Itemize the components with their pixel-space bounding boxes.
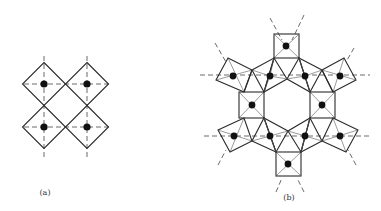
metal-atom xyxy=(83,80,90,87)
metal-atom xyxy=(83,123,90,130)
internal-bonds xyxy=(252,58,322,152)
dashed-axis xyxy=(270,18,282,40)
metal-atom xyxy=(302,73,309,80)
metal-atom xyxy=(40,123,47,130)
metal-atom xyxy=(283,43,290,50)
dashed-axis xyxy=(292,15,304,40)
metal-atom xyxy=(40,80,47,87)
metal-atom xyxy=(267,133,274,140)
metal-atom xyxy=(337,133,344,140)
dashed-axis xyxy=(276,178,282,192)
metal-atom xyxy=(302,133,309,140)
metal-atom xyxy=(267,73,274,80)
panel-b-label: (b) xyxy=(283,193,294,202)
metal-atom xyxy=(231,133,238,140)
panel-a-label: (a) xyxy=(39,188,50,197)
metal-atom xyxy=(249,102,256,109)
dashed-axis xyxy=(218,150,226,165)
dashed-axis xyxy=(346,48,354,62)
dashed-axis xyxy=(348,150,356,165)
panel-b xyxy=(200,15,370,192)
metal-atom xyxy=(285,161,292,168)
metal-atom xyxy=(337,73,344,80)
metal-atom xyxy=(319,102,326,109)
metal-atom xyxy=(230,73,237,80)
dashed-axis xyxy=(297,178,304,192)
panel-a xyxy=(23,56,113,160)
dashed-axis xyxy=(215,43,226,62)
diagram-canvas: (a) (b) xyxy=(0,0,381,211)
